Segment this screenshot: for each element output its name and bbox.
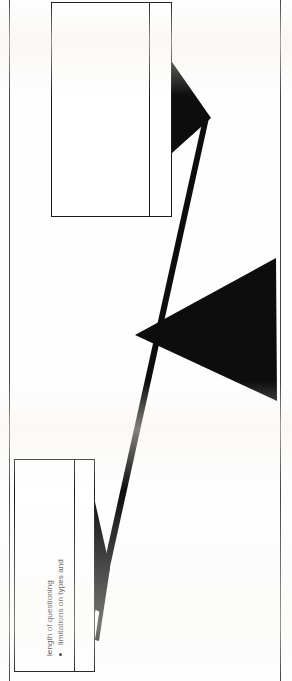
- scanned-page: quality control cost efficiency speed of…: [0, 0, 292, 681]
- connector-arrowhead-bottom: [95, 502, 110, 612]
- page-rule-right: [280, 0, 281, 681]
- disadvantages-bullet-list: limitations on types and: [55, 559, 67, 656]
- bullet-text: limitations on types and: [56, 559, 65, 645]
- connector-tail: [95, 567, 110, 641]
- bullet-dot-icon: [59, 653, 62, 656]
- connector-arrowhead-top: [172, 62, 211, 153]
- page-rule-left: [9, 0, 10, 681]
- box-advantages-body: quality control cost efficiency speed of…: [52, 3, 149, 216]
- box-disadvantages-body: limitations on types and length of quest…: [15, 460, 74, 671]
- box-major-disadvantages: limitations on types and length of quest…: [14, 459, 95, 672]
- bullet-text-continuation: length of questioning: [45, 580, 54, 656]
- large-solid-triangle: [135, 258, 277, 401]
- list-item: limitations on types and: [55, 559, 67, 656]
- box-advantages-title-band: MAJOR ADVANTAGES: [149, 3, 171, 216]
- box-disadvantages-title-band: MAJOR DISADVANTAGES: [74, 460, 94, 671]
- box-major-advantages: quality control cost efficiency speed of…: [51, 2, 172, 217]
